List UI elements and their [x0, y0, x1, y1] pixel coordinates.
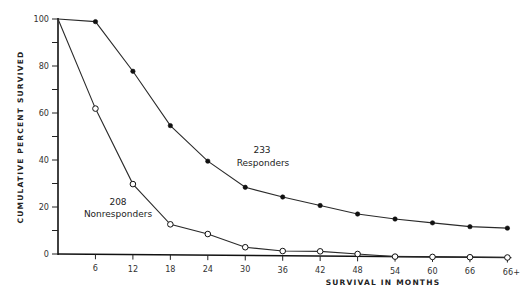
open-circle-marker [242, 244, 248, 250]
filled-circle-marker [318, 203, 322, 207]
x-axis-label: SURVIVAL IN MONTHS [326, 278, 441, 287]
y-axis-label: CUMULATIVE PERCENT SURVIVED [16, 50, 25, 223]
open-circle-marker [430, 254, 436, 260]
open-circle-marker [317, 249, 323, 255]
x-tick-label: 54 [390, 266, 400, 276]
filled-circle-marker [206, 159, 210, 163]
filled-circle-marker [430, 221, 434, 225]
x-tick-label: 42 [315, 265, 325, 275]
x-tick-label: 48 [352, 265, 362, 275]
filled-circle-marker [393, 217, 397, 221]
filled-circle-marker [243, 185, 247, 189]
responders-count: 233 [253, 145, 270, 155]
open-circle-marker [355, 251, 361, 257]
survival-chart: CUMULATIVE PERCENT SURVIVED SURVIVAL IN … [0, 0, 527, 297]
series-lines [58, 19, 510, 260]
nonresponders-count: 208 [109, 197, 126, 207]
open-circle-marker [205, 231, 211, 237]
x-tick-label: 36 [278, 265, 288, 275]
nonresponders-annotation: 208 Nonresponders [84, 197, 153, 219]
x-tick-label: 30 [240, 264, 250, 274]
open-circle-marker [168, 222, 174, 228]
responders-annotation: 233 Responders [237, 145, 290, 168]
x-tick-label: 66 [465, 266, 475, 276]
y-tick-label: 80 [39, 61, 49, 71]
filled-circle-marker [281, 195, 285, 199]
open-circle-marker [280, 248, 286, 254]
x-tick-label: 66+ [503, 267, 520, 277]
responders-label: Responders [237, 158, 290, 168]
filled-circle-marker [468, 224, 472, 228]
open-circle-marker [93, 106, 99, 112]
axes [58, 18, 511, 258]
open-circle-marker [467, 254, 473, 260]
y-tick-label: 100 [34, 14, 49, 24]
filled-circle-marker [168, 123, 172, 127]
filled-circle-marker [505, 226, 509, 230]
x-tick-label: 60 [427, 266, 437, 276]
open-circle-marker [130, 181, 136, 187]
x-tick-label: 24 [203, 264, 213, 274]
y-axis-title: CUMULATIVE PERCENT SURVIVED [16, 50, 25, 223]
nonresponders-label: Nonresponders [84, 209, 153, 219]
x-tick-label: 6 [93, 263, 98, 273]
y-tick-label: 0 [44, 249, 49, 259]
x-tick-label: 18 [165, 264, 175, 274]
x-tick-label: 12 [128, 264, 138, 274]
y-tick-label: 60 [39, 108, 49, 118]
filled-circle-marker [131, 69, 135, 73]
open-circle-marker [392, 254, 398, 260]
series-line [58, 19, 507, 258]
filled-circle-marker [93, 19, 97, 23]
open-circle-marker [505, 255, 511, 261]
y-ticks: 020406080100 [34, 14, 58, 259]
y-tick-label: 40 [39, 155, 49, 165]
filled-circle-marker [355, 212, 359, 216]
y-tick-label: 20 [39, 202, 49, 212]
